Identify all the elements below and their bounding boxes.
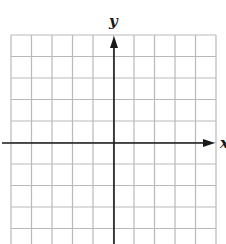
coordinate-plane: y x: [0, 0, 226, 244]
y-axis-label: y: [108, 12, 119, 30]
x-axis-label: x: [219, 134, 226, 152]
y-axis-arrow-icon: [110, 36, 118, 48]
x-axis-arrow-icon: [203, 139, 215, 147]
